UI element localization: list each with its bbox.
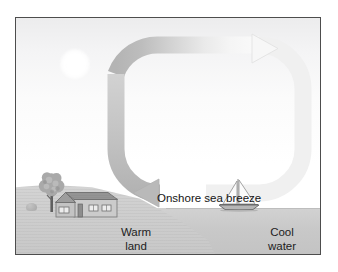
label-cool-water: Cool water — [254, 226, 310, 253]
figure-frame: Onshore sea breeze Warm land Cool water — [15, 17, 321, 255]
house-icon — [55, 186, 118, 218]
label-warm-land: Warm land — [108, 226, 164, 253]
bush-icon — [26, 203, 37, 211]
sun-icon — [60, 49, 90, 79]
scene: Onshore sea breeze Warm land Cool water — [16, 18, 320, 254]
diagram-root: Onshore sea breeze Warm land Cool water — [0, 0, 338, 272]
label-onshore-sea-breeze: Onshore sea breeze — [157, 192, 261, 206]
